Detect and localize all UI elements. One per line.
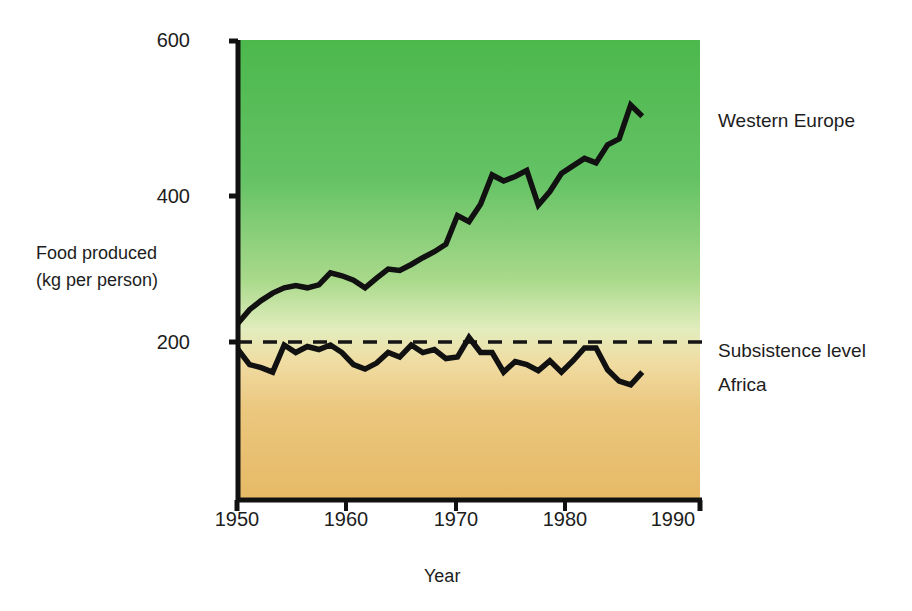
- y-axis-label: Food produced(kg per person): [36, 240, 158, 294]
- y-tick-label-200: 200: [120, 331, 190, 354]
- y-tick-label-400: 400: [120, 185, 190, 208]
- chart-figure: Food produced(kg per person) Year 600 40…: [0, 0, 912, 611]
- x-axis-label: Year: [424, 566, 460, 587]
- series-annotation-western-europe: Western Europe: [718, 110, 855, 132]
- x-tick-label-1960: 1960: [301, 508, 391, 531]
- x-tick-label-1980: 1980: [520, 508, 610, 531]
- x-tick-label-1950: 1950: [192, 508, 282, 531]
- series-annotation-africa: Africa: [718, 374, 767, 396]
- x-tick-label-1990: 1990: [628, 508, 718, 531]
- series-annotation-subsistence-level: Subsistence level: [718, 340, 866, 362]
- x-tick-label-1970: 1970: [411, 508, 501, 531]
- y-tick-label-600: 600: [120, 29, 190, 52]
- y-axis-label-line1: Food produced: [36, 243, 157, 263]
- y-axis-label-line2: (kg per person): [36, 270, 158, 290]
